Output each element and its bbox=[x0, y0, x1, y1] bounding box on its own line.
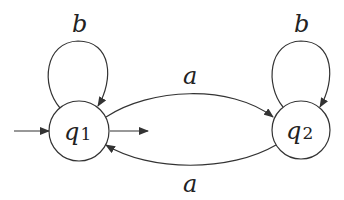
transition-q1-q1: b bbox=[48, 10, 107, 108]
transition-q2-q1: a bbox=[106, 145, 276, 198]
automaton-diagram: q1 q2 b b a a bbox=[0, 0, 344, 200]
state-q1: q1 bbox=[49, 101, 109, 161]
svg-text:q2: q2 bbox=[286, 117, 313, 145]
svg-text:a: a bbox=[183, 170, 197, 198]
transition-q2-q2: b bbox=[272, 10, 330, 107]
svg-text:b: b bbox=[72, 10, 87, 38]
svg-text:a: a bbox=[183, 62, 197, 90]
svg-text:b: b bbox=[294, 10, 309, 38]
transition-q1-q2: a bbox=[106, 62, 273, 117]
state-q2: q2 bbox=[272, 101, 330, 159]
svg-text:q1: q1 bbox=[64, 118, 91, 146]
